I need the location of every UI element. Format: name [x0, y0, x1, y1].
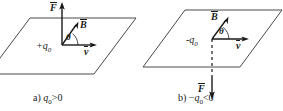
figure-root: F B v θ +q0 a) q0>0	[0, 0, 283, 111]
panel-b-caption: b) −q0<0	[178, 92, 214, 106]
angle-arc	[73, 34, 78, 45]
velocity-label: v	[236, 40, 240, 51]
panel-a-caption: a) q0>0	[33, 92, 62, 106]
plane-parallelogram	[0, 18, 136, 74]
charge-subscript: 0	[48, 46, 52, 54]
force-label-text: F	[50, 2, 57, 13]
charge-label: -q0	[186, 35, 198, 48]
charge-sign: +	[36, 40, 43, 51]
angle-arc	[223, 27, 229, 39]
charge-label: +q0	[36, 41, 51, 54]
panel-a-positive-charge: F B v θ +q0 a) q0>0	[0, 0, 142, 111]
panel-b-negative-charge: B v θ -q0 F b) −q0<0	[141, 0, 283, 111]
caption-prefix: b)	[178, 92, 186, 103]
panel-a-graphics	[0, 0, 142, 111]
force-label: F	[50, 2, 57, 13]
field-label-text: B	[80, 19, 87, 30]
velocity-label: v	[84, 46, 88, 57]
caption-relation: >0	[52, 92, 63, 103]
caption-relation: <0	[203, 92, 214, 103]
field-label-text: B	[211, 11, 218, 22]
caption-prefix: a)	[33, 92, 41, 103]
field-label: B	[211, 11, 218, 22]
angle-label: θ	[66, 33, 71, 42]
velocity-label-text: v	[84, 46, 88, 57]
field-label: B	[80, 19, 87, 30]
charge-subscript: 0	[194, 40, 198, 48]
velocity-label-text: v	[236, 40, 240, 51]
angle-label: θ	[219, 27, 224, 36]
